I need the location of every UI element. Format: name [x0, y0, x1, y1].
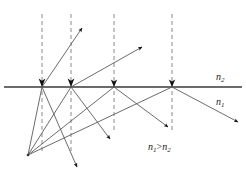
label-lower-medium: n1	[216, 97, 225, 109]
reflected-ray-1	[42, 87, 77, 167]
condition-right-subscript: 2	[167, 146, 171, 154]
label-index-condition: n1>n2	[148, 142, 171, 154]
refracted-ray-1	[42, 28, 82, 87]
label-lower-medium-subscript: 1	[221, 101, 225, 109]
incidence-arrowheads-group	[39, 79, 176, 87]
refracted-ray-2	[71, 47, 142, 87]
optics-ray-diagram: n2 n1 n1>n2	[0, 0, 246, 175]
incident-ray-1	[28, 87, 42, 155]
label-upper-medium-subscript: 2	[221, 76, 225, 84]
incident-ray-3	[28, 87, 114, 155]
refracted-rays-group	[42, 28, 142, 87]
source-point	[27, 154, 30, 157]
ray-diagram-canvas	[0, 0, 246, 175]
reflected-ray-4	[172, 87, 238, 122]
label-upper-medium: n2	[216, 72, 225, 84]
